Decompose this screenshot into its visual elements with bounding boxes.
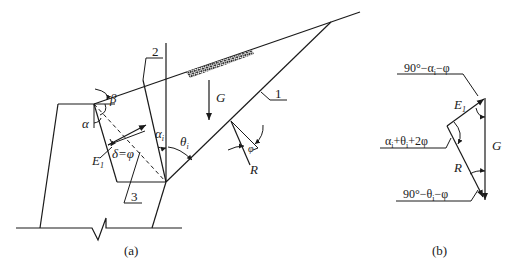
retaining-wall-wedge-diagram: β α αi θi E1 δ=φ G R φ 1 2 3 (a) 90°−αi−… bbox=[0, 0, 505, 270]
failure-plane bbox=[166, 22, 331, 182]
caption-b: (b) bbox=[432, 243, 447, 258]
alpha-label: α bbox=[82, 116, 90, 131]
callout-1-leader bbox=[261, 92, 287, 100]
angle-mid-label: αi+θi+2φ bbox=[385, 134, 428, 150]
R-label-b: R bbox=[453, 160, 462, 175]
theta-i-label: θi bbox=[180, 134, 189, 151]
callout-2: 2 bbox=[152, 44, 159, 59]
ground-surface bbox=[94, 12, 360, 104]
E1-label-b: E1 bbox=[453, 97, 466, 114]
angle-top-label: 90°−αi−φ bbox=[404, 61, 450, 77]
figure-b: 90°−αi−φ αi+θi+2φ 90°−θi−φ E1 G R (b) bbox=[380, 61, 502, 258]
beta-label: β bbox=[109, 91, 117, 106]
callout-2-leader bbox=[143, 58, 163, 80]
figure-a: β α αi θi E1 δ=φ G R φ 1 2 3 (a) bbox=[16, 12, 360, 258]
caption-a: (a) bbox=[124, 243, 138, 258]
callout-1: 1 bbox=[275, 86, 282, 101]
G-label-b: G bbox=[492, 138, 502, 153]
phi-label: φ bbox=[248, 143, 254, 154]
callout-3: 3 bbox=[131, 189, 138, 204]
R-label: R bbox=[249, 162, 258, 177]
delta-phi-label: δ=φ bbox=[112, 146, 134, 161]
dashed-line bbox=[94, 104, 166, 182]
R-vector bbox=[447, 126, 483, 197]
E1-arrow bbox=[108, 125, 146, 145]
G-label: G bbox=[216, 90, 226, 105]
angle-bottom-label: 90°−θi−φ bbox=[403, 187, 448, 203]
alpha-i-label: αi bbox=[155, 126, 164, 143]
beta-arc bbox=[95, 89, 108, 100]
soil-hatch bbox=[186, 50, 254, 78]
